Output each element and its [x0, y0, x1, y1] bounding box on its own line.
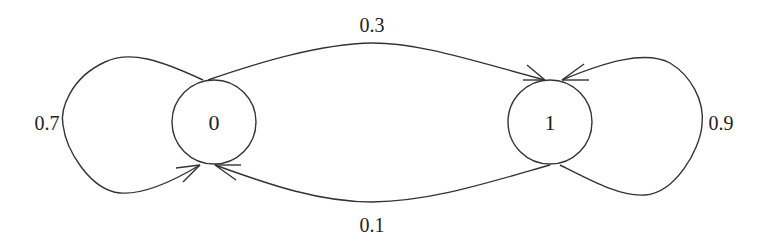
state-node-0: 0	[172, 80, 256, 164]
state-label-0: 0	[209, 110, 220, 135]
state-node-1: 1	[508, 80, 592, 164]
edge-label-0-to-1: 0.3	[360, 14, 385, 36]
edge-0-to-1	[208, 43, 545, 80]
edge-label-1-to-1: 0.9	[709, 112, 734, 134]
state-label-1: 1	[545, 110, 556, 135]
arrowhead-1-to-1	[562, 64, 589, 80]
edge-1-to-0	[215, 165, 550, 202]
edge-label-1-to-0: 0.1	[360, 214, 385, 236]
markov-chain-diagram: 0 1 0.7 0.3 0.1 0.9	[0, 0, 772, 249]
edge-label-0-to-0: 0.7	[35, 112, 60, 134]
